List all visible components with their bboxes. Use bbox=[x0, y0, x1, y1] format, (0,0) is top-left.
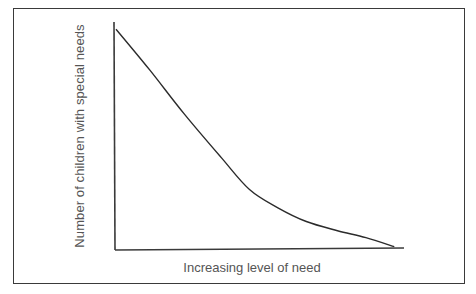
y-axis bbox=[114, 22, 115, 250]
y-axis-label: Number of children with special needs bbox=[72, 24, 87, 247]
data-curve bbox=[116, 29, 394, 247]
x-axis bbox=[115, 248, 404, 250]
x-axis-label: Increasing level of need bbox=[183, 260, 320, 275]
